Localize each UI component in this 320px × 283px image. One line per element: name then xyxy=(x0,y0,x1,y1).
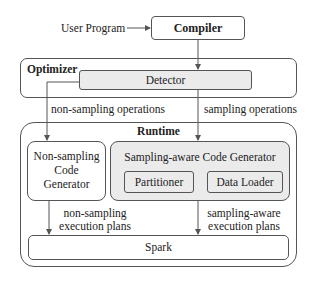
sampling-plans-line1: sampling-aware xyxy=(204,207,284,220)
compiler-box: Compiler xyxy=(151,16,245,40)
non-sampling-code-generator-box: Non-sampling Code Generator xyxy=(27,141,106,201)
spark-box: Spark xyxy=(28,235,289,260)
non-sampling-generator-line1: Non-sampling xyxy=(28,150,105,163)
non-sampling-plans-line1: non-sampling xyxy=(62,207,128,220)
data-loader-box: Data Loader xyxy=(207,171,283,193)
user-program-label: User Program xyxy=(61,22,125,35)
partitioner-box: Partitioner xyxy=(124,171,194,193)
data-loader-label: Data Loader xyxy=(208,176,282,189)
detector-label: Detector xyxy=(80,74,251,87)
non-sampling-plans-line2: execution plans xyxy=(55,220,135,233)
sampling-plans-line2: execution plans xyxy=(204,220,284,233)
compiler-label: Compiler xyxy=(152,22,244,35)
spark-label: Spark xyxy=(29,241,288,254)
sampling-aware-code-generator-box: Sampling-aware Code Generator Partitione… xyxy=(110,141,290,201)
non-sampling-generator-line3: Generator xyxy=(28,178,105,191)
runtime-title: Runtime xyxy=(20,125,297,138)
non-sampling-operations-label: non-sampling operations xyxy=(51,103,165,116)
optimizer-title: Optimizer xyxy=(27,63,77,76)
detector-box: Detector xyxy=(79,70,252,90)
partitioner-label: Partitioner xyxy=(125,176,193,189)
non-sampling-generator-line2: Code xyxy=(28,164,105,177)
sampling-generator-label: Sampling-aware Code Generator xyxy=(111,151,289,164)
sampling-operations-label: sampling operations xyxy=(204,103,297,116)
